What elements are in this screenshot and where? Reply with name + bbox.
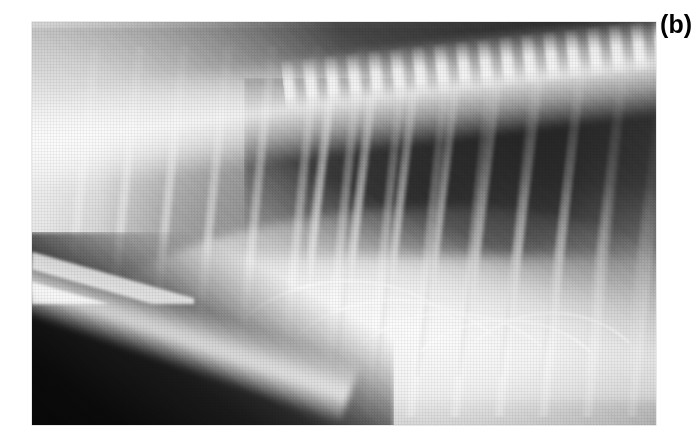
- figure-panel: (b): [0, 0, 698, 444]
- forelimb-fragments: [32, 252, 194, 304]
- radiograph-image: [32, 22, 656, 425]
- panel-label: (b): [660, 12, 692, 37]
